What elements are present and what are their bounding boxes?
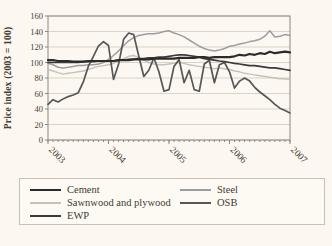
- y-axis-title: Price index (2003 = 100): [3, 27, 14, 130]
- y-tick-label: 120: [30, 42, 43, 52]
- legend-item-sawnwood-and-plywood: Sawnwood and plywood: [30, 197, 180, 209]
- y-tick-label: 160: [30, 11, 43, 21]
- legend-item-steel: Steel: [180, 184, 316, 196]
- legend-item-cement: Cement: [30, 184, 180, 196]
- y-tick-label: 60: [35, 89, 44, 99]
- legend-item-osb: OSB: [180, 197, 316, 209]
- osb-line-swatch: [180, 202, 211, 204]
- y-tick-label: 0: [39, 135, 43, 145]
- legend-label-osb: OSB: [217, 197, 237, 209]
- steel-line-swatch: [180, 189, 211, 191]
- scanned-chart-page: 0204060801001201401602003200420052006200…: [0, 0, 332, 246]
- price-index-line-chart: 0204060801001201401602003200420052006200…: [0, 0, 332, 176]
- x-tick-label: 2005: [168, 145, 189, 166]
- legend-label-steel: Steel: [217, 184, 238, 196]
- sawnwood-line-swatch: [30, 202, 61, 204]
- series-line-osb: [48, 33, 290, 113]
- x-tick-label: 2007: [289, 145, 310, 166]
- x-tick-label: 2006: [228, 145, 249, 166]
- y-tick-label: 100: [30, 58, 43, 68]
- legend-item-ewp: EWP: [30, 210, 180, 222]
- y-tick-label: 20: [35, 120, 44, 130]
- chart-legend: Cement Steel Sawnwood and plywood OSB EW…: [19, 178, 325, 225]
- x-tick-label: 2003: [47, 145, 68, 166]
- legend-label-sawnwood-and-plywood: Sawnwood and plywood: [67, 197, 171, 209]
- ewp-line-swatch: [30, 215, 61, 217]
- y-tick-label: 80: [35, 73, 44, 83]
- y-tick-label: 40: [35, 104, 44, 114]
- legend-label-cement: Cement: [67, 184, 100, 196]
- legend-label-ewp: EWP: [67, 210, 89, 222]
- y-tick-label: 140: [30, 27, 43, 37]
- cement-line-swatch: [30, 189, 61, 191]
- x-tick-label: 2004: [107, 145, 128, 166]
